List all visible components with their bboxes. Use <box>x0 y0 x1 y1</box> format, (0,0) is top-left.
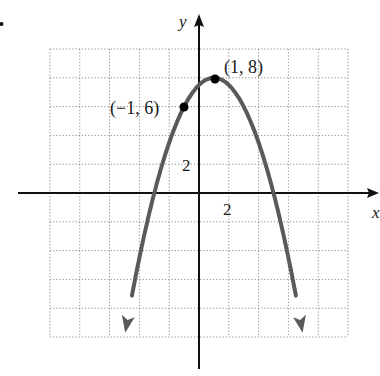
point-vertex <box>211 75 220 84</box>
x-axis-label: x <box>371 203 380 222</box>
curve-arrow-right-icon <box>293 315 306 333</box>
point-vertex-label: (1, 8) <box>224 57 263 78</box>
y-axis-label: y <box>177 12 187 31</box>
point-neg1-6-label: (−1, 6) <box>110 98 159 119</box>
stray-bullet <box>0 22 4 26</box>
parabola-graph: x y 2 2 (1, 8) (−1, 6) <box>0 0 380 376</box>
curve-arrow-left-icon <box>122 315 135 333</box>
x-tick-label: 2 <box>223 200 232 219</box>
y-tick-label: 2 <box>182 156 191 175</box>
point-neg1-6 <box>180 103 189 112</box>
